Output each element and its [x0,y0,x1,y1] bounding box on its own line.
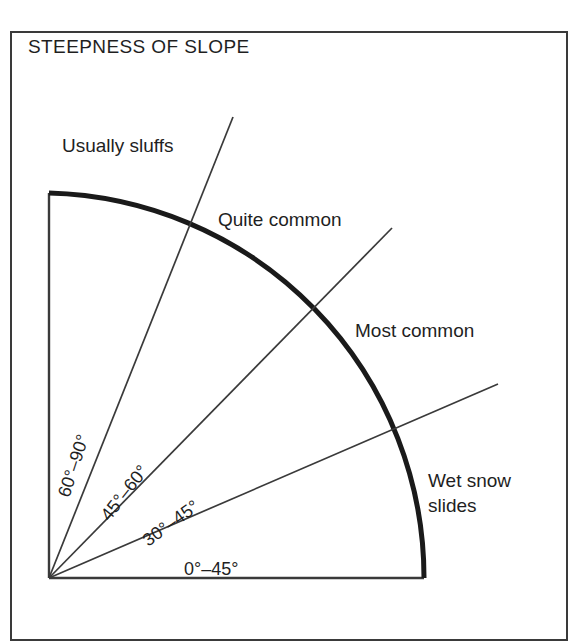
divider-ray-60-degrees [49,117,233,578]
zone-label-quite-common: Quite common [218,207,342,232]
zone-label-usually-sluffs: Usually sluffs [62,133,174,158]
angle-label-0-45: 0°–45° [184,559,238,580]
divider-ray-45-degrees [49,228,392,578]
zone-label-most-common: Most common [355,318,474,343]
zone-label-wet-snow-slides: Wet snow slides [428,468,511,518]
